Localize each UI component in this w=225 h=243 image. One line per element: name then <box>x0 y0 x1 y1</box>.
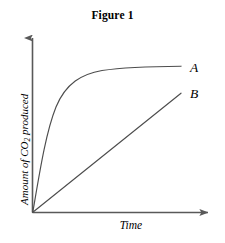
curve-a <box>33 66 181 212</box>
curve-label-a: A <box>190 60 198 76</box>
curve-label-b: B <box>190 86 198 102</box>
x-axis-label: Time <box>96 219 166 231</box>
figure-container: Figure 1 Amount of CO2 produced Time A B <box>0 0 225 243</box>
y-axis-label-main: Amount of CO <box>18 141 30 205</box>
plot-area <box>0 0 225 243</box>
y-axis-label: Amount of CO2 produced <box>17 35 31 205</box>
y-axis-label-subscript: 2 <box>23 138 32 142</box>
y-axis-label-suffix: produced <box>18 94 30 138</box>
